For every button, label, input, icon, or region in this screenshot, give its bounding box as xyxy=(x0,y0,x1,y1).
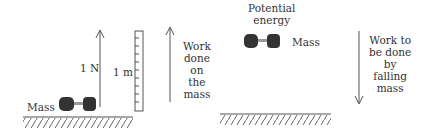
ground-right xyxy=(220,114,331,125)
dumbbell-icon xyxy=(59,97,96,111)
diagram-canvas xyxy=(0,0,425,138)
work-done-label: Work done on the mass xyxy=(183,40,211,100)
potential-energy-label: Potential energy xyxy=(248,2,295,26)
ground-left xyxy=(23,117,133,128)
height-label: 1 m xyxy=(113,66,133,78)
work-arrow-down xyxy=(355,31,363,104)
force-label: 1 N xyxy=(80,62,99,74)
dumbbell-raised-icon xyxy=(244,34,280,48)
work-arrow-up xyxy=(166,27,174,102)
mass-label-right: Mass xyxy=(292,36,320,48)
ruler-icon xyxy=(135,31,143,111)
mass-label-left: Mass xyxy=(27,101,55,113)
work-to-be-done-label: Work to be done by falling mass xyxy=(369,34,411,94)
